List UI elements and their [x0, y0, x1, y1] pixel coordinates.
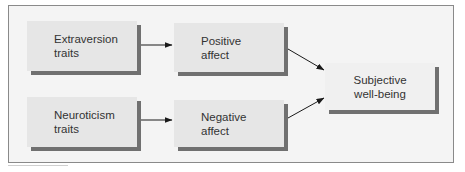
arrow-positive-affect-to-swb: [288, 49, 324, 70]
diagram-edges: [0, 0, 465, 172]
arrow-negative-affect-to-swb: [288, 98, 324, 118]
